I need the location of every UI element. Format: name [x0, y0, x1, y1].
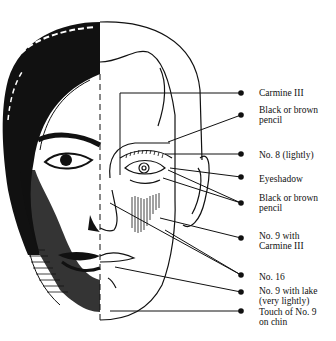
label-no8: No. 8 (lightly)	[259, 150, 314, 160]
label-no16: No. 16	[259, 272, 285, 282]
dot-pencil-top	[238, 112, 244, 118]
dot-pencil-bottom	[238, 200, 244, 206]
dot-carmine	[238, 90, 244, 96]
label-no9-lake: No. 9 with lake (very lightly)	[259, 286, 318, 306]
dot-no8	[238, 151, 244, 157]
label-dots	[238, 90, 244, 314]
dot-eyeshadow	[238, 174, 244, 180]
label-pencil-top: Black or brown pencil	[259, 105, 318, 125]
dot-no9-chin	[238, 308, 244, 314]
leader-line-pencil-top	[168, 115, 241, 142]
label-eyeshadow: Eyeshadow	[259, 174, 303, 184]
label-pencil-bottom: Black or brown pencil	[259, 193, 318, 213]
label-carmine: Carmine III	[259, 88, 304, 98]
dot-no9-carmine	[238, 235, 244, 241]
dot-no9-lake	[238, 289, 244, 295]
shaded-half-face	[3, 22, 100, 312]
label-no9-carmine: No. 9 with Carmine III	[259, 231, 304, 251]
label-no9-chin: Touch of No. 9 on chin	[259, 307, 316, 327]
leader-line-no9-carmine	[160, 218, 241, 238]
cheek-hatching	[132, 193, 159, 233]
carmine-bracket	[120, 93, 241, 175]
leader-line-no9-lake	[115, 267, 241, 292]
dot-no16	[238, 272, 244, 278]
